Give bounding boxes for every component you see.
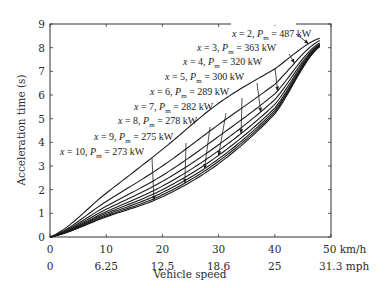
variable-p: P bbox=[207, 56, 214, 67]
variable-p: P bbox=[174, 86, 181, 97]
x-tick-label-mph: 0 bbox=[47, 260, 54, 272]
annotation-label: x = 3, Pm = 363 kW bbox=[196, 42, 277, 56]
annotation-arrow bbox=[275, 68, 278, 91]
y-tick-label: 3 bbox=[38, 160, 45, 172]
variable-p: P bbox=[256, 28, 263, 39]
x-tick-label-kmh: 10 bbox=[100, 243, 113, 255]
annotation-label: x = 8, Pm = 278 kW bbox=[117, 115, 198, 129]
y-tick-label: 0 bbox=[38, 231, 45, 243]
annotation-label: x = 6, Pm = 289 kW bbox=[149, 86, 230, 100]
power-value: = 275 kW bbox=[131, 131, 174, 142]
equals: = 7, bbox=[138, 101, 159, 112]
variable-p: P bbox=[221, 42, 228, 53]
power-value: = 363 kW bbox=[234, 42, 277, 53]
x-tick-label-mph: 25 bbox=[268, 260, 281, 272]
annotation-label: x = 9, Pm = 275 kW bbox=[93, 131, 174, 145]
power-value: = 487 kW bbox=[269, 28, 312, 39]
x-tick-label-kmh: 40 bbox=[268, 243, 281, 255]
variable-p: P bbox=[118, 131, 125, 142]
curves bbox=[50, 38, 320, 237]
variable-p: P bbox=[89, 146, 96, 157]
y-tick-label: 8 bbox=[38, 42, 45, 54]
x-tick-label-mph: 31.3 mph bbox=[319, 260, 369, 272]
equals: = 9, bbox=[98, 131, 119, 142]
y-tick-label: 4 bbox=[38, 136, 45, 148]
equals: = 4, bbox=[187, 56, 208, 67]
annotation-label: x = 7, Pm = 282 kW bbox=[133, 101, 214, 115]
power-value: = 300 kW bbox=[202, 71, 245, 82]
y-tick-label: 7 bbox=[38, 65, 45, 77]
x-tick-label-kmh: 20 bbox=[156, 243, 169, 255]
x-tick-label-kmh: 0 bbox=[47, 243, 54, 255]
power-value: = 282 kW bbox=[171, 101, 214, 112]
variable-p: P bbox=[142, 115, 149, 126]
power-value: = 289 kW bbox=[187, 86, 230, 97]
variable-p: P bbox=[189, 71, 196, 82]
power-value: = 273 kW bbox=[102, 146, 145, 157]
x-tick-label-mph: 6.25 bbox=[95, 260, 118, 272]
y-tick-label: 2 bbox=[38, 184, 45, 196]
y-tick-label: 5 bbox=[38, 113, 45, 125]
y-tick-label: 1 bbox=[38, 207, 45, 219]
annotation-arrow bbox=[241, 98, 242, 134]
equals: = 5, bbox=[169, 71, 190, 82]
annotation-label: x = 10, Pm = 273 kW bbox=[59, 146, 145, 160]
equals: = 10, bbox=[64, 146, 90, 157]
y-tick-label: 9 bbox=[38, 18, 45, 30]
x-tick-label-kmh: 50 km/h bbox=[323, 243, 367, 255]
x-tick-label-kmh: 30 bbox=[212, 243, 225, 255]
annotation-label: x = 5, Pm = 300 kW bbox=[164, 71, 245, 85]
power-value: = 320 kW bbox=[220, 56, 263, 67]
annotation-label: x = 2, Pm = 487 kW bbox=[231, 28, 312, 42]
y-axis-title: Acceleration time (s) bbox=[15, 74, 27, 186]
equals: = 2, bbox=[236, 28, 257, 39]
variable-p: P bbox=[158, 101, 165, 112]
power-value: = 278 kW bbox=[155, 115, 198, 126]
annotation-label: x = 4, Pm = 320 kW bbox=[182, 56, 263, 70]
y-tick-label: 6 bbox=[38, 89, 45, 101]
x-axis-title: Vehicle speed bbox=[152, 268, 226, 280]
equals: = 6, bbox=[154, 86, 175, 97]
series-line bbox=[50, 38, 320, 237]
annotation-arrow bbox=[219, 113, 226, 155]
acceleration-time-chart: 012345678900106.252012.53018.6402550 km/… bbox=[0, 0, 386, 288]
equals: = 8, bbox=[122, 115, 143, 126]
equals: = 3, bbox=[201, 42, 222, 53]
